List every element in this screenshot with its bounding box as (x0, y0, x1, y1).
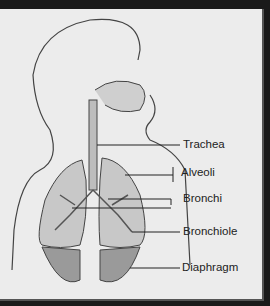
respiratory-illustration (0, 9, 264, 301)
label-bronchiole: Bronchiole (183, 225, 237, 237)
nasal-cavity (95, 81, 145, 112)
diaphragm-shape (42, 247, 140, 282)
label-trachea: Trachea (183, 138, 225, 150)
diagram-panel: Trachea Alveoli Bronchi Bronchiole Diaph… (0, 9, 264, 301)
left-lung (39, 160, 86, 248)
label-bronchi: Bronchi (183, 192, 222, 204)
label-alveoli: Alveoli (181, 166, 215, 178)
label-diaphragm: Diaphragm (182, 261, 238, 273)
trachea-shape (89, 100, 97, 190)
